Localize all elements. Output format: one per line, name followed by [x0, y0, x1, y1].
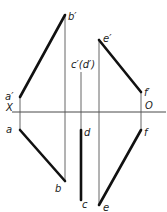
label-a-prime: a′ — [5, 91, 14, 102]
label-axis-o: O — [145, 100, 153, 111]
label-e-prime: e′ — [103, 33, 112, 44]
label-a: a — [6, 124, 12, 135]
line-ef-front — [99, 40, 141, 92]
line-ab-top — [20, 130, 65, 181]
label-e: e — [103, 202, 109, 212]
label-f-prime: f′ — [144, 87, 151, 98]
label-d: d — [84, 127, 91, 138]
label-b: b — [55, 183, 61, 194]
label-f: f — [144, 127, 149, 138]
diagram-svg: a′ X a b′ b c′(d′) d c e′ e f′ O f — [0, 0, 167, 212]
projection-diagram: a′ X a b′ b c′(d′) d c e′ e f′ O f — [0, 0, 167, 212]
label-c: c — [82, 199, 88, 210]
label-b-prime: b′ — [68, 11, 77, 22]
label-axis-x: X — [5, 102, 14, 113]
line-ab-front — [20, 15, 65, 97]
line-ef-top — [99, 130, 141, 205]
label-cd-prime: c′(d′) — [71, 59, 95, 70]
